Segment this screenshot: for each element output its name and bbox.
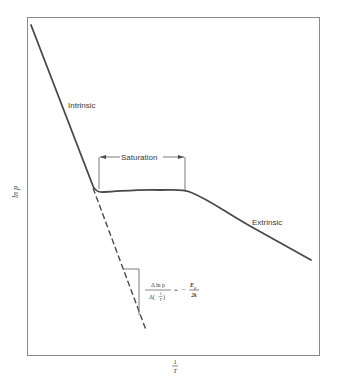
eq-lhs-denominator: Δ( 1 T ) — [149, 291, 165, 302]
semiconductor-carrier-concentration-diagram: Intrinsic Saturation Extrinsic ln p 1 T … — [0, 0, 339, 383]
slope-equation: Δ ln p Δ( 1 T ) = − E g 2k — [145, 282, 199, 302]
eq-lhs-numerator: Δ ln p — [151, 282, 165, 288]
eq-rhs-subscript: g — [194, 285, 196, 290]
x-label-denominator: T — [173, 367, 177, 374]
x-axis-label: 1 T — [172, 358, 178, 374]
extrinsic-label: Extrinsic — [252, 218, 282, 227]
intrinsic-extrapolation-dashed-line — [93, 188, 146, 330]
eq-rhs-denominator: 2k — [190, 292, 197, 298]
arrow-right-icon — [178, 155, 184, 159]
arrow-left-icon — [100, 155, 106, 159]
svg-text:1: 1 — [159, 291, 161, 296]
svg-text:T: T — [159, 297, 162, 302]
y-axis-label: ln p — [11, 186, 20, 198]
saturation-label: Saturation — [121, 153, 157, 162]
plot-frame — [28, 18, 320, 356]
x-label-numerator: 1 — [173, 358, 176, 365]
eq-equals: = — [174, 286, 178, 294]
svg-text:): ) — [163, 294, 165, 301]
eq-minus: − — [182, 286, 186, 294]
svg-text:Δ(: Δ( — [149, 294, 155, 301]
intrinsic-label: Intrinsic — [68, 101, 96, 110]
